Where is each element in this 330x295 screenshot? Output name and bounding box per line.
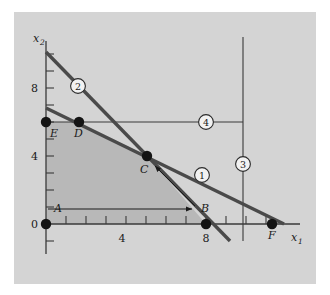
y-tick-label-0: 0: [31, 218, 38, 231]
y-tick-label-8: 8: [31, 82, 38, 95]
linear-programming-figure: 1 2 3 4 A B C D E F 4 8 0 4 8: [0, 0, 330, 295]
badge-4-label: 4: [203, 117, 209, 128]
y-axis-title-main: x: [33, 32, 40, 45]
point-label-E: E: [49, 127, 58, 140]
x-axis-title-main: x: [291, 231, 298, 244]
x-tick-label-4: 4: [119, 232, 126, 245]
dot-E: [41, 117, 51, 127]
dot-D: [74, 117, 84, 127]
point-label-D: D: [73, 127, 83, 140]
badge-4: 4: [199, 115, 214, 130]
point-label-C: C: [140, 163, 149, 176]
badge-1: 1: [195, 168, 210, 183]
figure-svg: 1 2 3 4 A B C D E F 4 8 0 4 8: [0, 0, 330, 295]
dot-C: [142, 151, 152, 161]
x-axis-title: x 1: [291, 231, 303, 246]
x-axis-title-sub: 1: [298, 237, 303, 246]
dot-origin: [41, 219, 51, 229]
badge-3: 3: [236, 157, 251, 172]
x-tick-label-8: 8: [203, 232, 210, 245]
point-label-F: F: [267, 229, 276, 242]
badge-1-label: 1: [199, 170, 205, 181]
y-axis-title: x 2: [33, 32, 45, 47]
y-tick-label-4: 4: [31, 150, 38, 163]
badge-3-label: 3: [240, 159, 246, 170]
dot-F: [267, 219, 277, 229]
dot-B: [201, 219, 211, 229]
badge-2-label: 2: [75, 81, 81, 92]
point-label-B: B: [200, 202, 209, 215]
badge-2: 2: [71, 79, 86, 94]
point-label-A: A: [53, 202, 62, 215]
y-axis-title-sub: 2: [39, 38, 45, 47]
